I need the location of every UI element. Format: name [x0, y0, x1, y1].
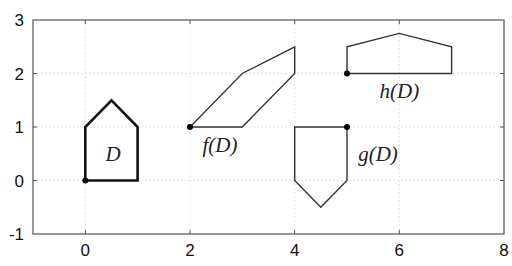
grid-lines [33, 20, 504, 234]
label-D: D [104, 142, 120, 166]
x-tick-label: 8 [499, 241, 508, 260]
polygon-g-of-D: g(D) [295, 124, 398, 207]
origin-marker [344, 71, 350, 77]
label-h-of-D: h(D) [379, 79, 419, 103]
polygon-f-of-D: f(D) [187, 47, 295, 157]
label-f-of-D: f(D) [203, 133, 238, 157]
origin-marker [344, 124, 350, 130]
y-tick-label: 2 [15, 65, 24, 84]
y-tick-label: 0 [15, 172, 24, 191]
y-axis-labels: 3 2 1 0 -1 [9, 11, 24, 244]
diagram-canvas: 3 2 1 0 -1 0 2 4 6 8 D f(D) g(D) h(D) [0, 0, 512, 266]
x-tick-label: 4 [290, 241, 299, 260]
polygon-h-of-D: h(D) [344, 33, 452, 103]
x-axis-labels: 0 2 4 6 8 [81, 241, 509, 260]
y-tick-label: 1 [15, 118, 24, 137]
origin-marker [187, 124, 193, 130]
y-tick-label: -1 [9, 225, 24, 244]
x-tick-label: 6 [395, 241, 404, 260]
y-tick-label: 3 [15, 11, 24, 30]
origin-marker [82, 178, 88, 184]
polygon-D: D [82, 100, 137, 183]
x-tick-label: 2 [185, 241, 194, 260]
x-tick-label: 0 [81, 241, 90, 260]
label-g-of-D: g(D) [358, 142, 398, 166]
